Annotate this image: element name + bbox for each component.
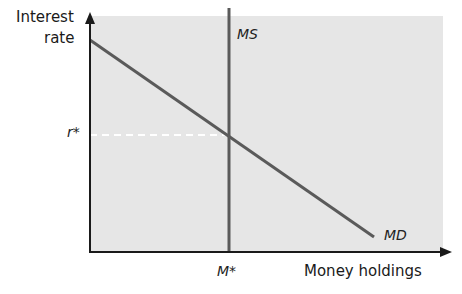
r-star-label: r* bbox=[67, 124, 80, 140]
md-label: MD bbox=[384, 227, 407, 243]
y-axis-title-line2: rate bbox=[44, 29, 74, 47]
x-axis-title: Money holdings bbox=[304, 262, 422, 280]
x-axis-arrow-icon bbox=[440, 247, 452, 257]
m-star-label: M* bbox=[217, 263, 236, 279]
ms-label: MS bbox=[237, 26, 258, 42]
y-axis-title-line1: Interest bbox=[16, 8, 74, 26]
